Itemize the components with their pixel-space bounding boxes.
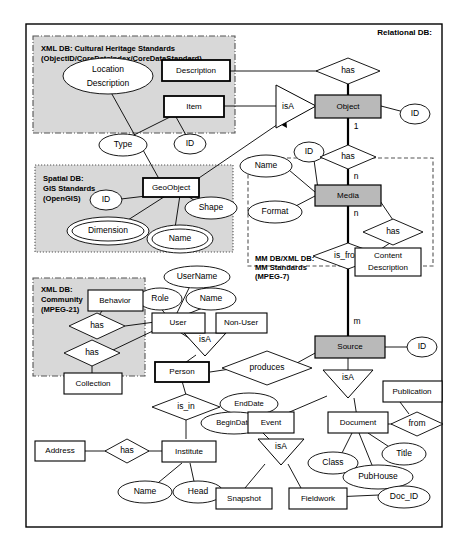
attribute-name-institute: Name (118, 481, 172, 503)
attribute-shape: Shape (185, 197, 237, 219)
entity-institute: Institute (162, 441, 216, 462)
relational-db-label: Relational DB: (377, 28, 432, 37)
relationship-from-label: from (409, 418, 426, 428)
entity-object: Object (315, 95, 381, 118)
attribute-name-user-label: Name (200, 293, 223, 303)
entity-fieldwork: Fieldwork (289, 488, 347, 509)
relationship-has-object-media-label: has (341, 151, 355, 161)
relationship-produces: produces (222, 351, 312, 385)
er-diagram-canvas: Relational DB: XML DB: Cultural Heritage… (0, 0, 459, 553)
entity-document: Document (328, 412, 388, 433)
entity-behavior-label: Behavior (99, 296, 131, 305)
entity-person-label: Person (169, 367, 194, 376)
attribute-id-geoobject: ID (90, 190, 122, 210)
attribute-id-item: ID (174, 134, 206, 154)
region-xml-community-line3: (MPEG-21) (41, 305, 80, 314)
entity-source-label: Source (337, 342, 363, 351)
isa-object: isA (276, 85, 316, 128)
attribute-name-geoobject: Name (147, 225, 213, 253)
attribute-id-media: ID (294, 142, 324, 162)
entity-content-description: Content Description (355, 248, 421, 276)
cardinality-object-1: 1 (354, 121, 359, 131)
relationship-has-object-description-label: has (341, 65, 355, 75)
attribute-name-media-label: Name (255, 160, 278, 170)
attribute-role-label: Role (151, 293, 169, 303)
entity-nonuser-label: Non-User (224, 318, 259, 327)
entity-nonuser: Non-User (216, 313, 267, 333)
attribute-enddate-label: EndDate (234, 399, 264, 408)
entity-content-description-label-1: Content (374, 251, 403, 260)
attribute-class-label: Class (322, 457, 343, 467)
attribute-format: Format (248, 201, 302, 223)
entity-collection: Collection (64, 373, 122, 394)
attribute-dimension: Dimension (67, 217, 149, 245)
attribute-id-source: ID (407, 337, 437, 357)
region-xml-community-line2: Community (41, 295, 84, 304)
entity-item: Item (164, 96, 224, 117)
attribute-location-description: Location Description (63, 58, 153, 94)
cardinality-source-m: m (353, 316, 360, 326)
entity-address: Address (35, 441, 85, 461)
entity-document-label: Document (340, 418, 377, 427)
entity-snapshot: Snapshot (216, 488, 272, 509)
relationship-has-address-label: has (120, 445, 134, 455)
region-xml-community-line1: XML DB: (41, 285, 73, 294)
region-mm-db-line3: (MPEG-7) (255, 272, 290, 281)
relationship-has-address: has (105, 439, 149, 463)
entity-behavior: Behavior (88, 290, 143, 311)
attribute-title-label: Title (396, 448, 412, 458)
entity-snapshot-label: Snapshot (227, 494, 262, 503)
attribute-id-item-label: ID (186, 138, 195, 148)
entity-collection-label: Collection (75, 379, 110, 388)
relationship-has-media-content-label: has (386, 226, 400, 236)
region-xml-cultural-heritage-line1: XML DB: Cultural Heritage Standards (41, 44, 175, 53)
isa-source: isA (323, 370, 373, 398)
attribute-role: Role (138, 288, 182, 310)
attribute-doc-id: Doc_ID (378, 486, 430, 508)
attribute-begindate-label: BeginDate (216, 418, 251, 427)
entity-media-label: Media (337, 191, 359, 200)
region-spatial-db-line2: GIS Standards (43, 184, 95, 193)
relationship-is-in-label: is_in (177, 401, 195, 411)
entity-geoobject-label: GeoObject (152, 183, 191, 192)
entity-event-label: Event (261, 418, 282, 427)
attribute-type: Type (99, 134, 147, 156)
entity-publication-label: Publication (392, 387, 431, 396)
relationship-from: from (391, 412, 443, 436)
entity-publication: Publication (383, 381, 442, 402)
attribute-name-geoobject-label: Name (169, 233, 192, 243)
region-spatial-db-line1: Spatial DB: (43, 174, 84, 183)
attribute-name-institute-label: Name (134, 486, 157, 496)
relationship-has-collection-label: has (85, 347, 99, 357)
attribute-dimension-label: Dimension (88, 225, 128, 235)
attribute-id-geoobject-label: ID (102, 194, 111, 204)
attribute-format-label: Format (262, 206, 290, 216)
isa-event: isA (258, 439, 304, 465)
attribute-id-media-label: ID (305, 146, 314, 156)
entity-user-label: User (170, 318, 187, 327)
isa-event-label: isA (275, 441, 287, 451)
region-mm-db-line2: MM Standards (255, 263, 307, 272)
attribute-pubhouse-label: PubHouse (358, 471, 398, 481)
attribute-pubhouse: PubHouse (343, 465, 413, 489)
entity-fieldwork-label: Fieldwork (301, 494, 336, 503)
attribute-shape-label: Shape (199, 202, 224, 212)
entity-content-description-label-2: Description (368, 263, 408, 272)
entity-description-label: Description (176, 66, 216, 75)
region-spatial-db-line3: (OpenGIS) (43, 194, 81, 203)
cardinality-media-n-bottom: n (354, 208, 359, 218)
entity-address-label: Address (45, 446, 74, 455)
isa-source-label: isA (342, 372, 354, 382)
entity-geoobject: GeoObject (143, 178, 199, 197)
attribute-title: Title (382, 443, 426, 465)
region-mm-db-line1: MM DB/XML DB: (255, 254, 314, 263)
attribute-location-description-label-2: Description (87, 78, 130, 88)
attribute-id-object-label: ID (411, 108, 420, 118)
entity-object-label: Object (336, 102, 360, 111)
entity-source: Source (315, 336, 385, 358)
attribute-username-label: UserName (177, 271, 218, 281)
relationship-has-object-description: has (316, 58, 380, 84)
entity-description: Description (162, 60, 230, 81)
entity-event: Event (248, 412, 294, 433)
relationship-has-object-media: has (320, 145, 376, 169)
